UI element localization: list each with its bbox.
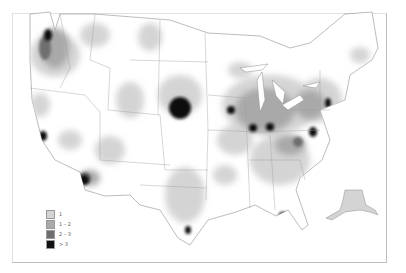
legend-label: 1 – 2 (59, 221, 71, 228)
alaska-inset (326, 190, 378, 220)
legend-item: > 3 (46, 240, 71, 249)
legend-label: 2 – 3 (59, 231, 71, 238)
legend-swatch (46, 210, 55, 219)
us-outline (30, 12, 378, 245)
legend-label: > 3 (59, 241, 68, 248)
legend-label: 1 (59, 211, 62, 218)
legend-item: 1 (46, 210, 71, 219)
legend-item: 1 – 2 (46, 220, 71, 229)
legend: 1 1 – 2 2 – 3 > 3 (46, 210, 71, 250)
legend-swatch (46, 220, 55, 229)
legend-swatch (46, 230, 55, 239)
legend-item: 2 – 3 (46, 230, 71, 239)
legend-swatch (46, 240, 55, 249)
